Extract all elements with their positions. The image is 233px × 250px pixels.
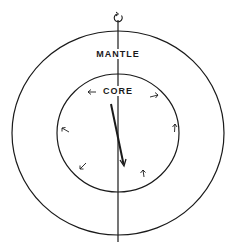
flow-arrow-right-icon: [150, 93, 158, 99]
mantle-label: MANTLE: [95, 49, 141, 59]
flow-arrow-left-icon: [88, 90, 96, 95]
flow-arrow-up-icon: [141, 170, 146, 177]
flow-arrow-down-left-icon: [80, 163, 86, 169]
earth-core-diagram: [0, 0, 233, 250]
core-label: CORE: [102, 86, 134, 96]
flow-arrow-up-left-icon: [62, 128, 69, 133]
flow-arrow-up-icon: [173, 124, 178, 132]
